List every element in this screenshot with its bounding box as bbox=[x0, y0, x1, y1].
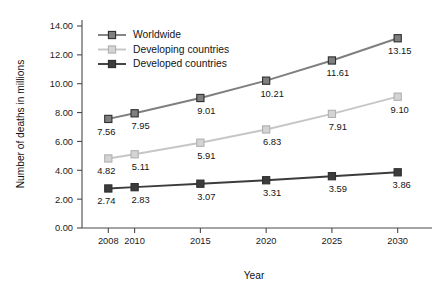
data-point-label: 3.86 bbox=[393, 179, 411, 190]
data-point-label: 5.91 bbox=[197, 150, 215, 161]
legend-label: Worldwide bbox=[133, 29, 181, 40]
series-line-1 bbox=[108, 97, 397, 159]
data-point-marker bbox=[328, 57, 335, 64]
data-point-marker bbox=[197, 94, 204, 101]
data-point-marker bbox=[105, 185, 112, 192]
x-tick-label: 2010 bbox=[124, 236, 145, 246]
data-point-marker bbox=[131, 110, 138, 117]
y-axis-title: Number of deaths in millions bbox=[15, 60, 26, 189]
data-point-marker bbox=[105, 115, 112, 122]
data-point-marker bbox=[328, 110, 335, 117]
data-point-label: 3.31 bbox=[263, 187, 281, 198]
y-tick-label: 6.00 bbox=[55, 137, 73, 147]
x-tick-label: 2025 bbox=[322, 236, 343, 246]
x-axis-title: Year bbox=[244, 270, 265, 281]
data-point-label: 5.11 bbox=[132, 161, 150, 172]
chart-canvas: 0.002.004.006.008.0010.0012.0014.00 2008… bbox=[0, 0, 442, 291]
y-tick-label: 4.00 bbox=[55, 166, 73, 176]
data-point-label: 9.10 bbox=[391, 104, 409, 115]
legend-label: Developed countries bbox=[133, 58, 227, 69]
data-point-marker bbox=[105, 155, 112, 162]
data-point-marker bbox=[131, 184, 138, 191]
x-tick-label: 2030 bbox=[387, 236, 408, 246]
data-point-label: 10.21 bbox=[260, 88, 283, 99]
data-point-label: 6.83 bbox=[263, 136, 281, 147]
y-tick-label: 14.00 bbox=[50, 21, 73, 31]
data-point-marker bbox=[263, 177, 270, 184]
legend-marker bbox=[108, 31, 115, 38]
legend-label: Developing countries bbox=[133, 44, 229, 55]
legend-marker bbox=[108, 46, 115, 53]
data-labels-layer: 7.567.959.0110.2111.6113.154.825.115.916… bbox=[97, 45, 411, 206]
chart-legend: WorldwideDeveloping countriesDeveloped c… bbox=[98, 29, 229, 69]
data-point-marker bbox=[394, 35, 401, 42]
y-tick-label: 12.00 bbox=[50, 50, 73, 60]
x-tick-label: 2015 bbox=[190, 236, 211, 246]
data-point-marker bbox=[394, 169, 401, 176]
data-point-label: 2.83 bbox=[131, 194, 149, 205]
x-tick-label: 2020 bbox=[256, 236, 277, 246]
data-point-label: 13.15 bbox=[388, 45, 411, 56]
data-point-label: 2.74 bbox=[97, 195, 115, 206]
data-point-label: 4.82 bbox=[97, 165, 115, 176]
data-point-label: 7.91 bbox=[329, 121, 347, 132]
y-axis-ticks: 0.002.004.006.008.0010.0012.0014.00 bbox=[50, 21, 82, 233]
y-tick-label: 0.00 bbox=[55, 223, 73, 233]
y-tick-label: 10.00 bbox=[50, 79, 73, 89]
data-point-label: 7.95 bbox=[131, 120, 149, 131]
series-line-2 bbox=[108, 172, 397, 188]
data-point-marker bbox=[394, 93, 401, 100]
data-point-label: 3.07 bbox=[197, 191, 215, 202]
legend-marker bbox=[108, 60, 115, 67]
line-chart: 0.002.004.006.008.0010.0012.0014.00 2008… bbox=[0, 0, 442, 291]
data-point-marker bbox=[197, 139, 204, 146]
data-point-label: 7.56 bbox=[97, 126, 115, 137]
data-point-marker bbox=[197, 180, 204, 187]
data-point-marker bbox=[131, 151, 138, 158]
data-point-marker bbox=[328, 173, 335, 180]
data-point-label: 9.01 bbox=[197, 105, 215, 116]
data-point-marker bbox=[263, 77, 270, 84]
y-tick-label: 2.00 bbox=[55, 195, 73, 205]
data-point-marker bbox=[263, 126, 270, 133]
x-tick-label: 2008 bbox=[98, 236, 119, 246]
x-axis-ticks: 200820102015202020252030 bbox=[98, 228, 408, 246]
data-point-label: 3.59 bbox=[329, 183, 347, 194]
data-point-label: 11.61 bbox=[327, 67, 350, 78]
y-tick-label: 8.00 bbox=[55, 108, 73, 118]
